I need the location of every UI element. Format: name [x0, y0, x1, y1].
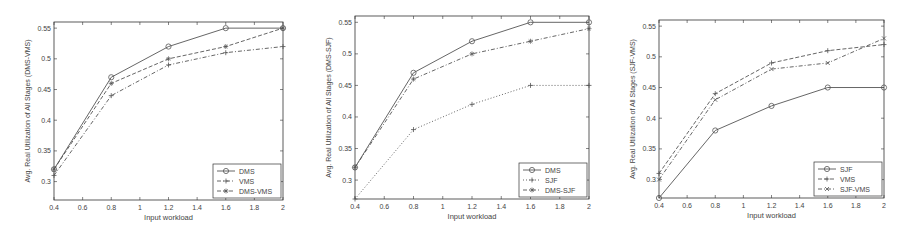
x-tick-label: 0.8 [710, 202, 720, 209]
x-tick-label: 1.6 [823, 202, 833, 209]
x-tick-label: 0.4 [654, 202, 664, 209]
y-tick-label: 0.5 [646, 53, 656, 60]
legend-label: SJF [840, 166, 852, 173]
legend: SJFVMSSJF-VMS [814, 162, 882, 196]
y-tick-label: 0.3 [646, 176, 656, 183]
chart-sjf-vms: 0.40.60.811.21.41.61.820.30.350.40.450.5… [0, 0, 916, 233]
legend-label: SJF-VMS [840, 186, 870, 193]
x-tick-label: 1 [741, 202, 745, 209]
y-tick-label: 0.35 [642, 145, 656, 152]
x-tick-label: 1.4 [795, 202, 805, 209]
x-tick-label: 1.8 [851, 202, 861, 209]
y-tick-label: 0.4 [646, 115, 656, 122]
x-tick-label: 2 [882, 202, 886, 209]
x-axis-label: Input workload [747, 211, 796, 220]
y-axis-label: Avg. Real Utilization of All Stages (SJF… [629, 39, 637, 179]
legend-label: VMS [840, 176, 856, 183]
y-tick-label: 0.45 [642, 84, 656, 91]
x-tick-label: 0.6 [682, 202, 692, 209]
y-tick-label: 0.55 [642, 23, 656, 30]
x-tick-label: 1.2 [767, 202, 777, 209]
